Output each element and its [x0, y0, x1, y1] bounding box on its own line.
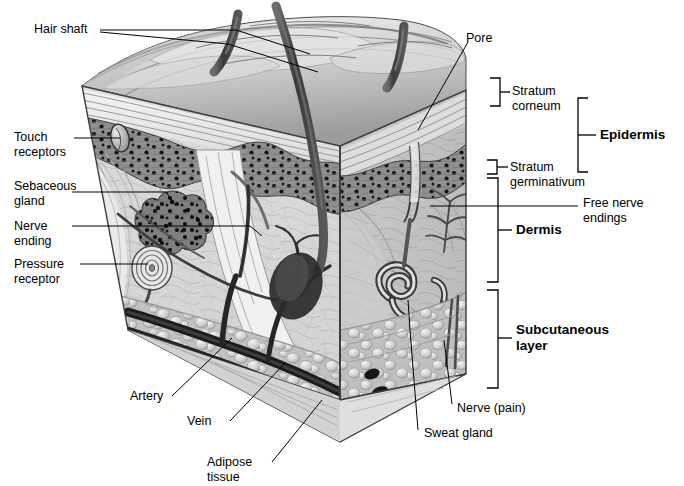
label-free-nerve-endings-line1: Free nerve [583, 196, 643, 211]
label-stratum-corneum-line2: corneum [512, 99, 561, 114]
skin-diagram-figure: Hair shaft Touch receptors Sebaceous gla… [0, 0, 684, 486]
label-pore: Pore [466, 31, 492, 46]
label-sebaceous-gland-line2: gland [14, 194, 45, 209]
label-stratum-corneum-line1: Stratum [512, 84, 556, 99]
label-subcutaneous-layer-line1: Subcutaneous [516, 322, 609, 338]
label-pressure-receptor-line2: receptor [14, 272, 60, 287]
label-subcutaneous-layer-line2: layer [516, 338, 548, 354]
label-artery: Artery [130, 389, 163, 404]
label-nerve-ending-line2: ending [14, 234, 52, 249]
label-adipose-tissue-line1: Adipose [207, 455, 252, 470]
skin-block-illustration [0, 0, 684, 486]
label-hair-shaft: Hair shaft [34, 22, 88, 37]
label-adipose-tissue-line2: tissue [207, 470, 240, 485]
label-nerve-pain: Nerve (pain) [457, 401, 526, 416]
label-stratum-germinativum-line2: germinativum [510, 175, 585, 190]
label-sebaceous-gland-line1: Sebaceous [14, 179, 77, 194]
label-nerve-ending-line1: Nerve [14, 219, 47, 234]
label-epidermis: Epidermis [600, 127, 665, 143]
label-pressure-receptor-line1: Pressure [14, 257, 64, 272]
label-dermis: Dermis [516, 222, 562, 238]
label-touch-receptors-line2: receptors [14, 145, 66, 160]
label-vein: Vein [187, 414, 211, 429]
label-sweat-gland: Sweat gland [424, 426, 493, 441]
label-free-nerve-endings-line2: endings [583, 211, 627, 226]
sebaceous-gland-structure [135, 191, 214, 255]
label-stratum-germinativum-line1: Stratum [510, 160, 554, 175]
label-touch-receptors-line1: Touch [14, 130, 47, 145]
